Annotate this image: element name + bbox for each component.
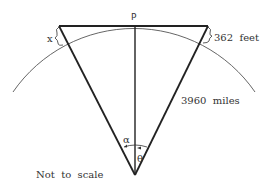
theta-label: θ xyxy=(137,153,143,164)
x-label: x xyxy=(47,33,53,44)
not-to-scale-note: Not to scale xyxy=(36,169,103,180)
alpha-label: α xyxy=(123,134,130,145)
theta-arrow-icon xyxy=(137,147,141,150)
radius-label: 3960 miles xyxy=(181,95,240,106)
left-radius-line xyxy=(59,26,135,175)
height-label: 362 feet xyxy=(214,32,259,43)
earth-horizon-diagram: P x 362 feet 3960 miles α θ Not to scale xyxy=(0,0,265,187)
point-p-label: P xyxy=(131,12,137,22)
